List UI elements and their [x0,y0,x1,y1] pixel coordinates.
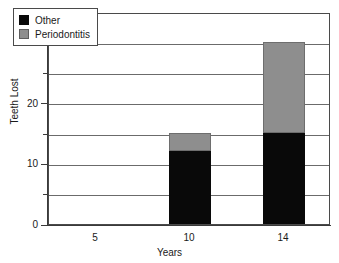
bar-segment-14-other [263,133,305,224]
x-axis-line [48,225,331,226]
black-square-swatch-icon [19,15,29,25]
bar-group-10 [169,12,211,224]
bar-chart: 3020100 Teeth Lost 51014 Years Other Per… [0,0,339,263]
x-tick-label-14: 14 [253,232,313,243]
y-axis-title: Teeth Lost [9,62,20,142]
legend-item-other: Other [19,13,90,27]
y-tick-minor-15 [43,134,47,135]
y-tick-major-0 [41,225,47,226]
y-tick-major-10 [41,164,47,165]
y-tick-major-20 [41,103,47,104]
legend-item-periodontitis: Periodontitis [19,27,90,41]
chart-legend: Other Periodontitis [13,8,98,46]
legend-label-periodontitis: Periodontitis [35,29,90,40]
y-tick-label-10: 10 [0,159,38,169]
x-axis-title: Years [0,247,339,258]
y-tick-minor-5 [43,194,47,195]
y-tick-minor-25 [43,73,47,74]
gray-square-swatch-icon [19,29,29,39]
bar-segment-10-other [169,151,211,224]
y-tick-label-0: 0 [0,220,38,230]
legend-label-other: Other [35,15,60,26]
bar-segment-10-periodontitis [169,133,211,151]
x-tick-label-10: 10 [159,232,219,243]
x-tick-label-5: 5 [65,232,125,243]
bar-group-14 [263,12,305,224]
bar-segment-14-periodontitis [263,42,305,133]
